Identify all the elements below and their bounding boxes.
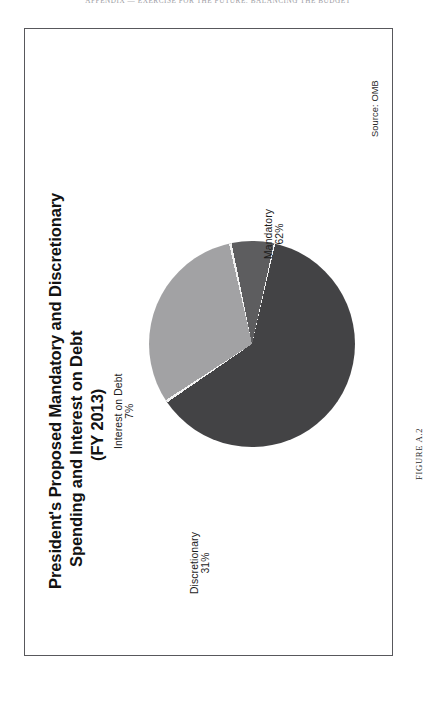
page-running-head: APPENDIX — EXERCISE FOR THE FUTURE: BALA…: [0, 0, 436, 4]
pie-label-discretionary: Discretionary 31%: [189, 532, 211, 594]
figure-caption: FIGURE A.2: [414, 428, 424, 480]
pie-slice-separators: [149, 241, 355, 447]
pie-label-interest-on-debt: Interest on Debt 7%: [113, 373, 135, 449]
chart-title-line-2: Spending and Interest on Debt: [67, 331, 86, 567]
pie-chart: [149, 241, 355, 447]
chart-title-line-1: President's Proposed Mandatory and Discr…: [46, 193, 65, 589]
pie-label-discretionary-name: Discretionary: [189, 532, 200, 594]
pie-label-discretionary-value: 31%: [200, 532, 211, 594]
pie-label-mandatory: Mandatory 62%: [263, 209, 285, 259]
pie-label-mandatory-name: Mandatory: [263, 209, 274, 259]
pie-label-interest-on-debt-name: Interest on Debt: [113, 373, 124, 449]
source-note: Source: OMB: [370, 80, 380, 137]
chart-title-line-3: (FY 2013): [88, 389, 107, 461]
pie-label-interest-on-debt-value: 7%: [124, 373, 135, 449]
figure-frame: President's Proposed Mandatory and Discr…: [24, 28, 393, 656]
pie-label-mandatory-value: 62%: [274, 209, 285, 259]
